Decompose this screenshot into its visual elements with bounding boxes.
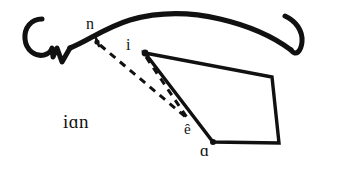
point-n-dot — [94, 39, 99, 44]
label-e-circumflex: ê — [184, 122, 191, 137]
figure-root: n i ê ɑ iɑn — [0, 0, 338, 173]
diagram-canvas — [0, 0, 338, 173]
thick-curved-arc — [70, 14, 291, 50]
left-hook-curl — [25, 19, 70, 62]
point-i-dot — [142, 50, 149, 57]
label-ian: iɑn — [63, 112, 89, 131]
point-a-dot — [210, 139, 216, 145]
label-a: ɑ — [200, 142, 209, 159]
label-n: n — [86, 16, 94, 32]
label-i: i — [126, 37, 130, 53]
